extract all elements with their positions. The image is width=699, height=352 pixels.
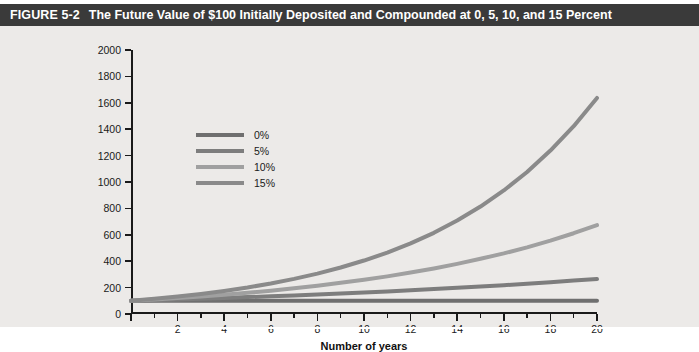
x-tick xyxy=(130,314,132,321)
x-axis-title: Number of years xyxy=(131,340,597,352)
x-tick xyxy=(363,314,365,321)
x-tick-label: 10 xyxy=(358,323,370,335)
legend-item[interactable]: 15% xyxy=(196,175,316,191)
x-minor-tick xyxy=(433,314,435,318)
y-tick-label: 800 xyxy=(103,202,121,214)
x-tick xyxy=(410,314,412,321)
y-tick-label: 0 xyxy=(115,308,121,320)
legend-swatch-icon xyxy=(196,181,244,185)
x-tick xyxy=(223,314,225,321)
legend-swatch-icon xyxy=(196,133,244,137)
x-tick xyxy=(596,314,598,321)
legend-label: 0% xyxy=(254,129,269,141)
legend-label: 15% xyxy=(254,177,275,189)
x-minor-tick xyxy=(340,314,342,318)
legend-item[interactable]: 0% xyxy=(196,127,316,143)
x-tick xyxy=(177,314,179,321)
x-tick-label: 14 xyxy=(451,323,463,335)
x-tick-label: 8 xyxy=(314,323,320,335)
x-tick-label: 16 xyxy=(498,323,510,335)
legend-label: 5% xyxy=(254,145,269,157)
chart-panel: Future value (dollars) Number of years 0… xyxy=(0,26,699,327)
x-tick-label: 20 xyxy=(591,323,603,335)
x-tick-label: 12 xyxy=(405,323,417,335)
x-minor-tick xyxy=(200,314,202,318)
figure-title: The Future Value of $100 Initially Depos… xyxy=(89,8,612,22)
legend-item[interactable]: 10% xyxy=(196,159,316,175)
legend-item[interactable]: 5% xyxy=(196,143,316,159)
y-tick-label: 1400 xyxy=(98,123,121,135)
legend-label: 10% xyxy=(254,161,275,173)
x-tick xyxy=(503,314,505,321)
y-tick-label: 400 xyxy=(103,255,121,267)
figure-number: FIGURE 5-2 xyxy=(10,8,80,22)
x-tick-label: 4 xyxy=(221,323,227,335)
x-tick-label: 2 xyxy=(175,323,181,335)
x-minor-tick xyxy=(247,314,249,318)
y-tick-label: 1200 xyxy=(98,150,121,162)
y-tick-label: 200 xyxy=(103,282,121,294)
x-minor-tick xyxy=(573,314,575,318)
x-minor-tick xyxy=(293,314,295,318)
x-tick xyxy=(550,314,552,321)
y-tick-label: 1000 xyxy=(98,176,121,188)
x-tick-label: 6 xyxy=(268,323,274,335)
legend-swatch-icon xyxy=(196,165,244,169)
x-tick-label: 18 xyxy=(545,323,557,335)
figure-bottom-rule xyxy=(0,327,699,329)
x-tick xyxy=(317,314,319,321)
x-tick xyxy=(270,314,272,321)
x-minor-tick xyxy=(154,314,156,318)
legend-swatch-icon xyxy=(196,149,244,153)
x-minor-tick xyxy=(526,314,528,318)
plot-area: 0200400600800100012001400160018002000 24… xyxy=(131,50,597,314)
chart-legend: 0%5%10%15% xyxy=(196,127,316,191)
x-minor-tick xyxy=(480,314,482,318)
y-tick-label: 600 xyxy=(103,229,121,241)
y-tick-label: 1600 xyxy=(98,97,121,109)
x-tick xyxy=(456,314,458,321)
x-minor-tick xyxy=(387,314,389,318)
y-tick-label: 1800 xyxy=(98,70,121,82)
series-line-10pct xyxy=(131,225,597,301)
y-tick-label: 2000 xyxy=(98,44,121,56)
figure-title-bar: FIGURE 5-2 The Future Value of $100 Init… xyxy=(0,4,699,26)
